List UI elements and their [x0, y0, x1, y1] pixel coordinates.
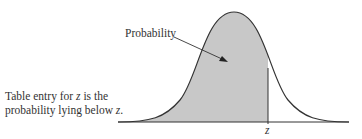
probability-label: Probability [125, 27, 176, 39]
caption: Table entry for z is the probability lyi… [5, 90, 123, 117]
caption-line-1: Table entry for z is the [5, 90, 123, 104]
z-axis-label: z [265, 124, 269, 136]
normal-curve-diagram [0, 0, 362, 139]
caption-line-2: probability lying below z. [5, 104, 123, 118]
